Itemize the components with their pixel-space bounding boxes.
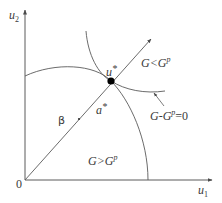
boundary-label: G-Gp=0 (150, 109, 188, 122)
a-star-label-sup: * (102, 101, 107, 112)
region-greater-sup: p (113, 153, 117, 162)
region-less-sup: p (166, 55, 170, 64)
boundary-pointer (154, 93, 164, 106)
origin-label: 0 (16, 178, 22, 190)
a-star-dot (78, 118, 80, 120)
constraint-arc (25, 67, 148, 180)
boundary-label-eq: =0 (175, 109, 188, 123)
y-axis-label: u2 (9, 9, 19, 24)
a-star-label: a* (96, 102, 107, 116)
region-less-label: G<Gp (141, 56, 170, 69)
optimum-label: u* (106, 64, 117, 78)
x-axis-label-sub: 1 (204, 190, 208, 199)
beta-label: β (58, 115, 65, 126)
boundary-label-text: G-G (150, 109, 171, 123)
region-greater-label: G>Gp (88, 154, 117, 167)
diagram-canvas (0, 0, 222, 203)
y-axis-label-sub: 2 (15, 15, 19, 24)
optimum-label-sup: * (112, 63, 117, 74)
region-greater-text: G>G (88, 154, 113, 168)
region-less-text: G<G (141, 56, 166, 70)
x-axis-label: u1 (198, 184, 208, 199)
